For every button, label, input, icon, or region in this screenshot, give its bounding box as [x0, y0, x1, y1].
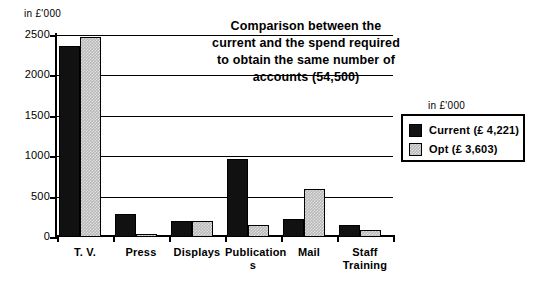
x-axis-tick — [57, 235, 59, 242]
legend-swatch-icon — [409, 124, 422, 137]
x-axis-tick — [113, 235, 115, 242]
bar-opt — [136, 234, 157, 237]
legend-label: Current (£ 4,221) — [429, 124, 519, 136]
x-axis-tick — [337, 235, 339, 242]
bar-current — [171, 221, 192, 237]
legend-item-opt[interactable]: Opt (£ 3,603) — [409, 140, 498, 158]
legend-label: Opt (£ 3,603) — [429, 143, 498, 155]
x-axis-tick — [393, 235, 395, 242]
y-axis-tick-label: 2500 — [4, 28, 50, 40]
category-label-line: s — [225, 259, 281, 272]
bar-current — [339, 225, 360, 237]
chart-title-line: to obtain the same number of — [188, 52, 424, 69]
bar-opt — [80, 37, 101, 237]
y-axis-unit-caption: in £'000 — [24, 8, 61, 19]
y-axis-tick — [50, 237, 57, 239]
bar-opt — [360, 230, 381, 237]
y-axis-tick-label: 500 — [4, 190, 50, 202]
category-label-line: Publication — [225, 246, 281, 259]
x-axis-category-label: Displays — [169, 246, 225, 259]
chart-title-line: current and the spend required — [188, 35, 424, 52]
category-label-line: Displays — [169, 246, 225, 259]
x-axis-tick — [225, 235, 227, 242]
x-axis-category-label: Press — [113, 246, 169, 259]
chart-legend: Current (£ 4,221)Opt (£ 3,603) — [401, 114, 525, 162]
y-axis-tick-label: 1500 — [4, 109, 50, 121]
x-axis-category-label: StaffTraining — [337, 246, 393, 272]
bar-current — [227, 159, 248, 237]
chart-title: Comparison between thecurrent and the sp… — [188, 18, 424, 86]
bar-chart: in £'000 05001000150020002500 T. V.Press… — [0, 0, 554, 291]
category-label-line: Training — [337, 259, 393, 272]
bar-opt — [192, 221, 213, 237]
y-axis-tick — [50, 156, 57, 158]
category-label-line: Staff — [337, 246, 393, 259]
legend-item-current[interactable]: Current (£ 4,221) — [409, 121, 519, 139]
legend-swatch-icon — [409, 143, 422, 156]
y-axis-tick — [50, 116, 57, 118]
y-axis-tick — [50, 197, 57, 199]
category-label-line: Mail — [281, 246, 337, 259]
x-axis-category-label: T. V. — [57, 246, 113, 259]
chart-title-line: accounts (54,500) — [188, 69, 424, 86]
chart-title-line: Comparison between the — [188, 18, 424, 35]
bar-opt — [248, 225, 269, 237]
y-axis-tick — [50, 35, 57, 37]
x-axis-category-label: Mail — [281, 246, 337, 259]
bar-current — [115, 214, 136, 237]
x-axis-category-label: Publications — [225, 246, 281, 272]
category-label-line: T. V. — [57, 246, 113, 259]
bar-current — [59, 46, 80, 237]
y-axis-tick-label: 0 — [4, 230, 50, 242]
category-label-line: Press — [113, 246, 169, 259]
bar-opt — [304, 189, 325, 237]
y-axis-tick — [50, 75, 57, 77]
y-axis-tick-label: 1000 — [4, 149, 50, 161]
x-axis-tick — [169, 235, 171, 242]
x-axis-tick — [281, 235, 283, 242]
y-axis-tick-label: 2000 — [4, 68, 50, 80]
legend-unit-caption: in £'000 — [428, 100, 465, 111]
bar-current — [283, 219, 304, 237]
